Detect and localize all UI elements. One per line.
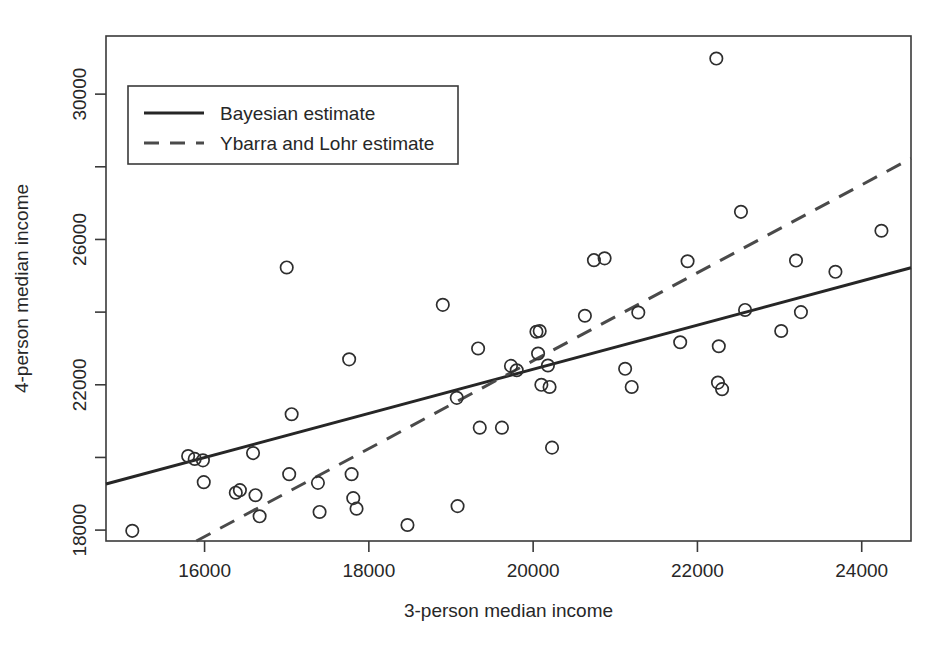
x-axis-tick-label: 24000 [835,560,888,581]
scatter-plot: 1600018000200002200024000180002200026000… [0,0,947,645]
data-point [312,477,324,489]
legend-label: Bayesian estimate [220,103,375,124]
figure-container: 1600018000200002200024000180002200026000… [0,0,947,645]
data-point [474,421,486,433]
data-point [345,468,357,480]
regression-line-solid [106,268,911,484]
data-point [710,52,722,64]
y-axis-tick-label: 30000 [69,68,90,121]
data-point [253,510,265,522]
plot-generated-content: 1600018000200002200024000180002200026000… [11,36,911,621]
data-point [451,500,463,512]
data-point [626,381,638,393]
data-point [535,379,547,391]
data-point [713,340,725,352]
data-point [496,421,508,433]
data-point [579,310,591,322]
y-axis-tick-label: 22000 [69,358,90,411]
x-axis-tick-label: 20000 [507,560,560,581]
data-point [735,206,747,218]
data-point [281,261,293,273]
data-point [401,519,413,531]
data-point [343,353,355,365]
data-point [775,325,787,337]
x-axis-tick-label: 18000 [342,560,395,581]
data-point [829,266,841,278]
y-axis-title: 4-person median income [11,184,32,393]
data-point [437,299,449,311]
data-point [247,447,259,459]
data-point [234,484,246,496]
data-point [546,441,558,453]
data-point [285,408,297,420]
data-point [875,225,887,237]
x-axis-tick-label: 22000 [671,560,724,581]
data-point [472,342,484,354]
y-axis-tick-label: 26000 [69,213,90,266]
data-point [632,306,644,318]
data-point [543,381,555,393]
data-point [795,306,807,318]
data-point [674,336,686,348]
legend-label: Ybarra and Lohr estimate [220,133,434,154]
data-point [681,255,693,267]
x-axis-title: 3-person median income [404,600,613,621]
data-point [619,363,631,375]
data-point [126,525,138,537]
data-point [283,468,295,480]
x-axis-tick-label: 16000 [178,560,231,581]
data-point [198,476,210,488]
data-point [790,254,802,266]
data-point [313,506,325,518]
data-point [249,489,261,501]
y-axis-tick-label: 18000 [69,504,90,557]
regression-line-dashed [196,158,911,541]
